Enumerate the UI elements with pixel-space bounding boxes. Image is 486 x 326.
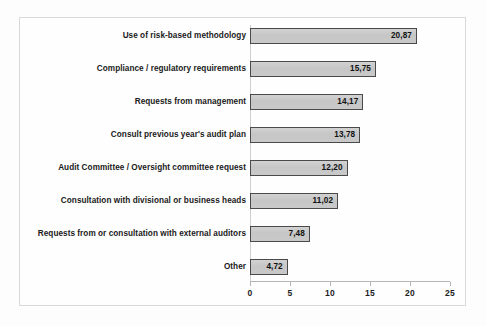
bar-category-label: Requests from or consultation with exter… <box>31 229 246 240</box>
bar-value-label: 14,17 <box>250 94 363 110</box>
bar-row: Requests from or consultation with exter… <box>0 226 486 259</box>
bar-category-label: Other <box>31 262 246 273</box>
bar-value-label: 7,48 <box>250 226 310 242</box>
bar-category-label: Consult previous year's audit plan <box>31 130 246 141</box>
bar-row: Audit Committee / Oversight committee re… <box>0 160 486 193</box>
bar-category-label: Consultation with divisional or business… <box>31 196 246 207</box>
bar-category-label: Audit Committee / Oversight committee re… <box>31 163 246 174</box>
bar-value-label: 15,75 <box>250 61 376 77</box>
bar-row: Other4,72 <box>0 259 486 292</box>
bar-category-label: Compliance / regulatory requirements <box>31 64 246 75</box>
bar-value-label: 20,87 <box>250 28 417 44</box>
bar-value-label: 4,72 <box>250 259 288 275</box>
bar-category-label: Requests from management <box>31 97 246 108</box>
bar-category-label: Use of risk-based methodology <box>31 31 246 42</box>
bar-value-label: 12,20 <box>250 160 348 176</box>
bar-row: Consult previous year's audit plan13,78 <box>0 127 486 160</box>
bar-row: Consultation with divisional or business… <box>0 193 486 226</box>
bar-value-label: 11,02 <box>250 193 338 209</box>
bar-value-label: 13,78 <box>250 127 360 143</box>
bar-row: Compliance / regulatory requirements15,7… <box>0 61 486 94</box>
bar-row: Use of risk-based methodology20,87 <box>0 28 486 61</box>
bar-row: Requests from management14,17 <box>0 94 486 127</box>
bar-chart: 0510152025 Use of risk-based methodology… <box>0 0 486 326</box>
